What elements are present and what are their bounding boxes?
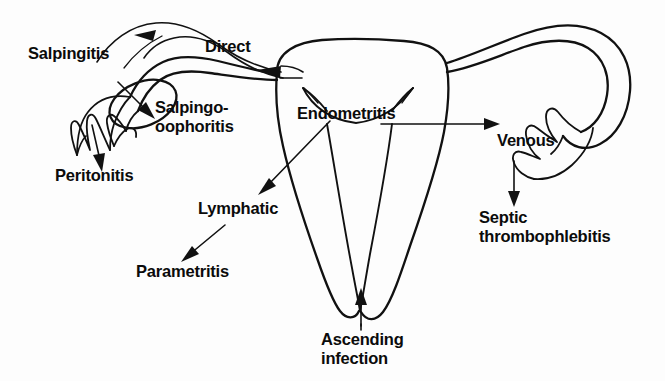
label-peritonitis: Peritonitis [55, 166, 133, 185]
salpingitis-leader-line [124, 36, 162, 68]
parametritis-route-shaft [190, 225, 225, 254]
venous-route-arrow-group [381, 118, 500, 130]
uterus-right-body-outline [277, 39, 448, 319]
label-direct: Direct [205, 37, 251, 56]
label-ascending-line1: Ascending [321, 330, 404, 349]
label-salpingitis: Salpingitis [28, 44, 109, 63]
left-tube-upper-wall [130, 57, 277, 97]
anatomy-diagram-canvas: Salpingitis Direct Salpingo- oophoritis … [0, 0, 665, 381]
venous-route-arrowhead [484, 118, 500, 130]
right-fallopian-tube-group [447, 26, 630, 180]
septic-route-arrowhead [508, 191, 520, 207]
direct-route-arrowhead-left [134, 30, 156, 41]
label-septic-line2: thrombophlebitis [479, 227, 611, 246]
label-ascending-line2: infection [321, 349, 388, 368]
left-fimbriae-fringe-tip [114, 128, 136, 146]
label-parametritis: Parametritis [136, 262, 229, 281]
parametritis-route-arrow-group [181, 225, 225, 262]
label-lymphatic: Lymphatic [198, 199, 278, 218]
direct-route-upper-curve [97, 23, 281, 72]
direct-route-tail-upper [281, 66, 303, 72]
cervical-canal-right-wall [360, 124, 392, 311]
label-salpingo-oophoritis-line2: oophoritis [155, 117, 234, 136]
uterus-outline-group [276, 39, 448, 319]
direct-route-arrow-group [97, 23, 303, 78]
peritonitis-route-arrow-group [92, 125, 105, 172]
label-salpingo-oophoritis-line1: Salpingo- [155, 98, 228, 117]
label-endometritis: Endometritis [297, 104, 395, 123]
label-venous: Venous [497, 131, 555, 150]
lymphatic-route-shaft [267, 121, 330, 186]
septic-route-arrow-group [508, 161, 520, 207]
label-septic-line1: Septic [479, 208, 527, 227]
cervical-canal-left-wall [327, 124, 360, 311]
